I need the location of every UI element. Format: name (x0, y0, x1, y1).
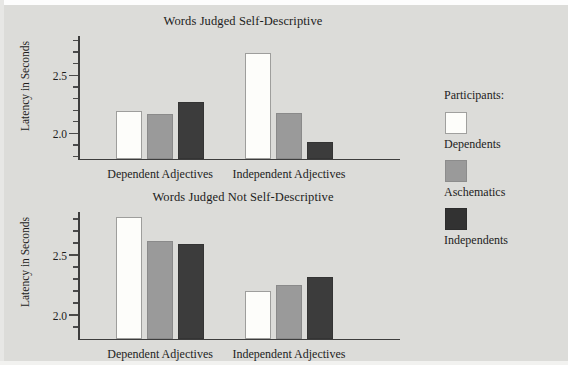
legend: Participants: Dependents Aschematics Ind… (444, 88, 564, 256)
y-axis-minor-tick-bottom (73, 278, 78, 279)
y-axis-minor-tick-top (73, 51, 78, 52)
bar-aschematics-bottom-0 (147, 241, 173, 338)
y-axis-tick-label-bottom: 2.0 (53, 310, 67, 322)
y-axis-minor-tick-top (73, 110, 78, 111)
legend-swatch-aschematics (445, 160, 467, 182)
y-axis-major-tick-bottom (69, 314, 78, 315)
bar-aschematics-bottom-1 (276, 285, 302, 339)
figure-canvas: Words Judged Self-Descriptive Latency in… (0, 0, 568, 365)
y-axis-line-top (78, 36, 80, 160)
y-axis-tick-label-top: 2.5 (53, 70, 67, 82)
legend-item-independents: Independents (444, 208, 564, 248)
y-axis-minor-tick-bottom (73, 290, 78, 291)
bar-independents-bottom-0 (178, 244, 204, 339)
chart-panel-self-descriptive: Words Judged Self-Descriptive Latency in… (0, 14, 420, 189)
y-axis-minor-tick-bottom (73, 230, 78, 231)
chart-title-bottom: Words Judged Not Self-Descriptive (78, 190, 408, 205)
legend-swatch-dependents (445, 112, 467, 134)
y-axis-label-bottom: Latency in Seconds (19, 207, 31, 317)
legend-item-aschematics: Aschematics (444, 160, 564, 200)
y-axis-major-tick-bottom (69, 254, 78, 255)
y-axis-minor-tick-top (73, 156, 78, 157)
bar-dependents-bottom-1 (245, 291, 271, 339)
x-axis-line-top (78, 159, 400, 161)
y-axis-minor-tick-bottom (73, 326, 78, 327)
y-axis-minor-tick-bottom (73, 242, 78, 243)
y-axis-minor-tick-bottom (73, 302, 78, 303)
y-axis-minor-tick-bottom (73, 266, 78, 267)
chart-title-top: Words Judged Self-Descriptive (78, 14, 408, 29)
y-axis-minor-tick-top (73, 86, 78, 87)
bar-independents-top-0 (178, 102, 204, 159)
y-axis-major-tick-top (69, 133, 78, 134)
x-axis-group-label-top-1: Independent Adjectives (199, 167, 379, 182)
plot-area-top: 2.02.5 (78, 36, 400, 160)
legend-label-independents: Independents (444, 233, 564, 248)
legend-title: Participants: (444, 88, 564, 103)
bar-dependents-bottom-0 (116, 217, 142, 338)
y-axis-tick-label-bottom: 2.5 (53, 250, 67, 262)
y-axis-minor-tick-top (73, 144, 78, 145)
y-axis-minor-tick-top (73, 98, 78, 99)
legend-label-aschematics: Aschematics (444, 185, 564, 200)
bar-aschematics-top-0 (147, 114, 173, 158)
x-axis-line-bottom (78, 339, 400, 341)
y-axis-label-top: Latency in Seconds (19, 31, 31, 141)
legend-swatch-independents (445, 208, 467, 230)
y-axis-line-bottom (78, 212, 80, 340)
bar-dependents-top-0 (116, 111, 142, 159)
legend-label-dependents: Dependents (444, 137, 564, 152)
figure-top-edge (0, 0, 568, 5)
plot-area-bottom: 2.02.5 (78, 212, 400, 340)
y-axis-minor-tick-top (73, 40, 78, 41)
y-axis-minor-tick-top (73, 63, 78, 64)
bar-independents-top-1 (307, 142, 333, 158)
bar-dependents-top-1 (245, 53, 271, 159)
y-axis-minor-tick-bottom (73, 218, 78, 219)
y-axis-major-tick-top (69, 75, 78, 76)
chart-panel-not-self-descriptive: Words Judged Not Self-Descriptive Latenc… (0, 190, 420, 365)
bar-independents-bottom-1 (307, 277, 333, 338)
x-axis-group-label-bottom-1: Independent Adjectives (199, 347, 379, 362)
y-axis-tick-label-top: 2.0 (53, 128, 67, 140)
y-axis-minor-tick-top (73, 121, 78, 122)
bar-aschematics-top-1 (276, 113, 302, 158)
legend-item-dependents: Dependents (444, 112, 564, 152)
